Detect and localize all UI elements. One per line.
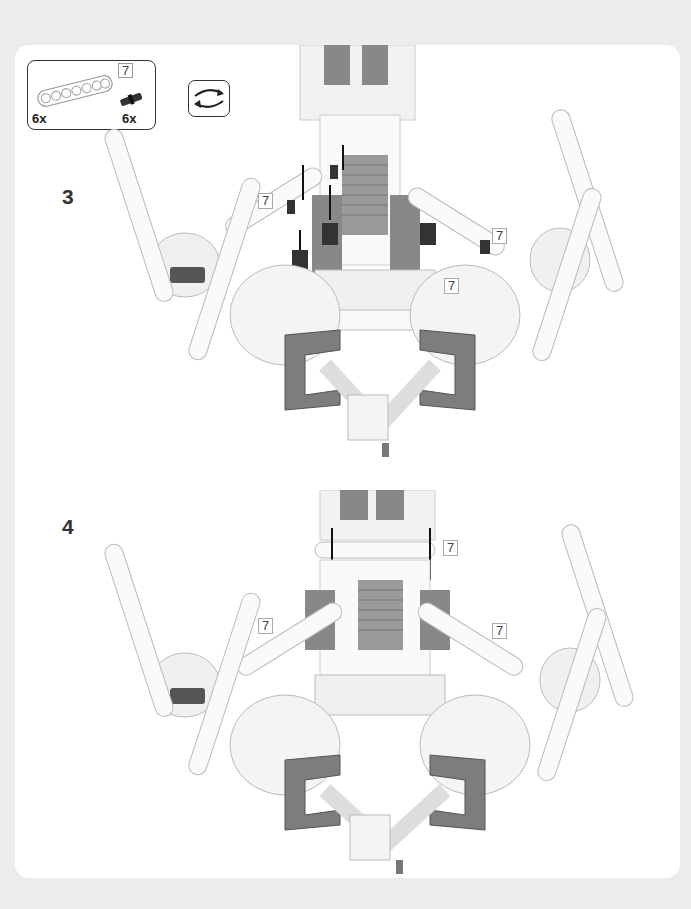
step-4-model-illustration — [100, 490, 660, 880]
beam-quantity: 6x — [32, 111, 46, 126]
step-3-model-illustration — [100, 45, 660, 465]
beam-length-callout: 7 — [258, 193, 273, 209]
beam-length-callout: 7 — [444, 278, 459, 294]
beam-length-callout: 7 — [492, 228, 507, 244]
beam-length-callout: 7 — [443, 540, 458, 556]
step-number: 4 — [62, 515, 74, 539]
step-number: 3 — [62, 185, 74, 209]
beam-length-callout: 7 — [492, 623, 507, 639]
beam-length-callout: 7 — [258, 618, 273, 634]
